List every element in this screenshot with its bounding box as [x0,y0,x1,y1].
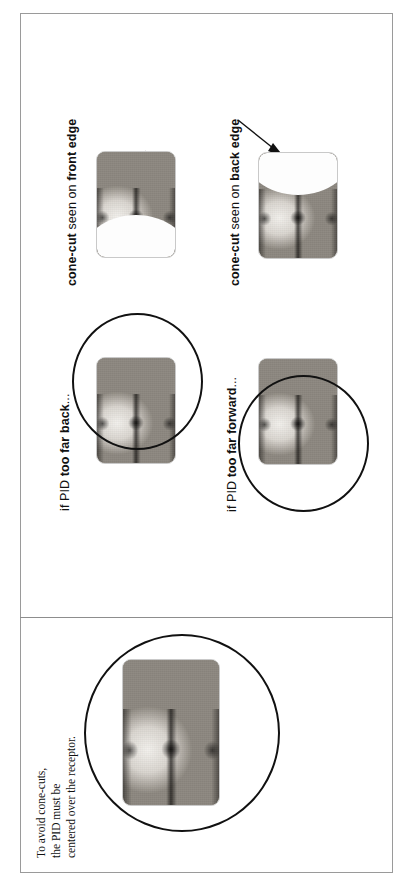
cond-back-prefix: if PID [58,476,72,511]
callout-back-middle: seen on [228,181,242,233]
caption-line-1: To avoid cone-cuts, [34,736,49,858]
xray-too-far-back-result [96,151,176,258]
condition-label-too-far-back: if PID too far back... [59,393,72,511]
cond-back-emphasis: too far back [58,404,72,476]
callout-front-prefix: cone-cut [65,233,79,286]
cond-back-suffix: ... [58,393,72,404]
cond-fwd-emphasis: too far forward [225,388,239,478]
figure-caption: To avoid cone-cuts, the PID must be cent… [34,736,79,858]
caption-line-2: the PID must be [49,736,64,858]
pid-beam-circle-too-far-back [72,313,203,450]
cond-fwd-suffix: ... [225,377,239,388]
callout-label-front-edge: cone-cut seen on front edge [66,119,79,286]
xray-too-far-forward-result [258,152,338,259]
panel-divider [20,617,393,618]
cond-fwd-prefix: if PID [225,477,239,512]
cone-cut-front-edge [97,215,175,257]
pid-beam-circle-centered [84,634,280,832]
callout-front-middle: seen on [65,181,79,233]
callout-front-emphasis: front edge [65,119,79,181]
callout-back-prefix: cone-cut [228,233,242,286]
cone-cut-back-edge [259,153,337,195]
pid-beam-circle-too-far-forward [238,375,369,512]
condition-label-too-far-forward: if PID too far forward... [226,377,239,512]
caption-line-3: centered over the receptor. [64,736,79,858]
